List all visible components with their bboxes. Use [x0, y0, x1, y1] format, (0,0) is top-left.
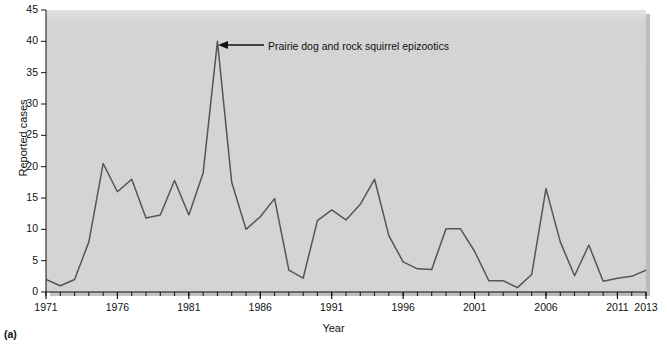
x-tick-label: 1991 [312, 301, 352, 313]
y-tick-label: 0 [0, 285, 38, 297]
y-tick-label: 5 [0, 254, 38, 266]
figure-panel-a: 051015202530354045 197119761981198619911… [0, 0, 667, 345]
x-tick-label: 1976 [97, 301, 137, 313]
y-tick-label: 10 [0, 222, 38, 234]
x-tick-label: 2001 [455, 301, 495, 313]
panel-label: (a) [4, 328, 17, 340]
y-tick-marks [41, 10, 46, 292]
y-tick-label: 35 [0, 66, 38, 78]
y-tick-label: 45 [0, 3, 38, 15]
x-tick-label: 1981 [169, 301, 209, 313]
annotation-arrow [218, 41, 264, 49]
y-axis-label: Reported cases [17, 83, 29, 193]
x-tick-label: 2006 [526, 301, 566, 313]
x-axis-label: Year [0, 322, 667, 334]
x-tick-label: 1986 [240, 301, 280, 313]
x-tick-label: 1971 [26, 301, 66, 313]
annotation-label: Prairie dog and rock squirrel epizootics [268, 40, 449, 52]
x-tick-label: 2013 [626, 301, 666, 313]
x-minor-tick-marks [46, 292, 646, 296]
x-tick-label: 1996 [383, 301, 423, 313]
y-tick-label: 40 [0, 34, 38, 46]
